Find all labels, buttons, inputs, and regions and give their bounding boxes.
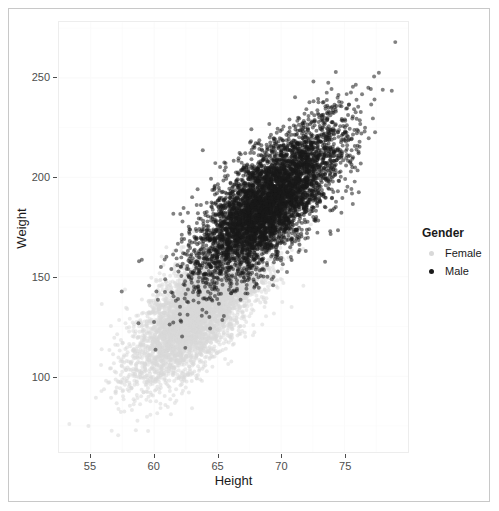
y-tick-mark — [53, 377, 57, 378]
y-tick-label: 150 — [0, 272, 58, 283]
legend: Gender Female Male — [422, 226, 482, 280]
y-tick-label: 250 — [0, 72, 58, 83]
x-tick-mark — [345, 454, 346, 458]
x-tick-mark — [154, 454, 155, 458]
x-tick-mark — [218, 454, 219, 458]
male-legend-key — [422, 262, 440, 280]
x-tick-mark — [90, 454, 91, 458]
y-tick-label: 200 — [0, 172, 58, 183]
y-tick-mark — [53, 77, 57, 78]
x-tick-label: 70 — [261, 461, 301, 472]
legend-item-male[interactable]: Male — [422, 262, 482, 280]
female-legend-key — [422, 244, 440, 262]
plot-panel — [58, 21, 409, 453]
legend-item-female[interactable]: Female — [422, 244, 482, 262]
x-tick-label: 75 — [325, 461, 365, 472]
legend-label-female: Female — [445, 247, 482, 259]
x-tick-mark — [281, 454, 282, 458]
y-tick-label: 100 — [0, 372, 58, 383]
y-tick-mark — [53, 277, 57, 278]
scatter-plot-figure: 100150200250 5560657075 Height Weight Ge… — [0, 0, 499, 511]
legend-label-male: Male — [445, 265, 469, 277]
scatter-points — [59, 22, 408, 452]
x-tick-label: 60 — [134, 461, 174, 472]
x-tick-label: 55 — [70, 461, 110, 472]
x-tick-label: 65 — [198, 461, 238, 472]
y-tick-mark — [53, 177, 57, 178]
y-axis-title: Weight — [14, 199, 29, 259]
legend-title: Gender — [422, 226, 482, 240]
x-axis-title: Height — [58, 473, 409, 488]
